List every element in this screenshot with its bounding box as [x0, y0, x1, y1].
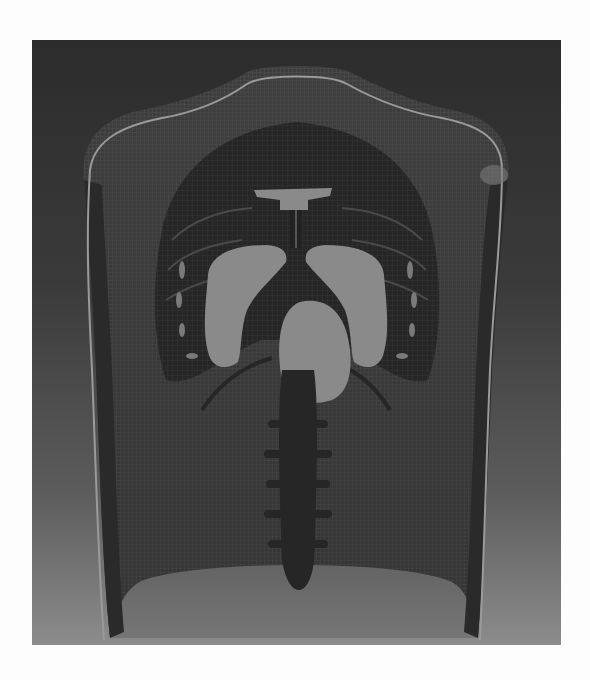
figure-panel: [32, 40, 561, 645]
thorax-mesh-illustration: [32, 40, 561, 645]
trachea: [290, 210, 302, 248]
